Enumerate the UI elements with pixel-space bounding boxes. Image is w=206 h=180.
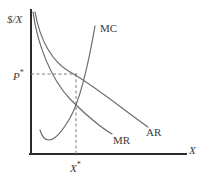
y-axis-label: $/X (7, 14, 22, 25)
price-star-superscript: * (20, 68, 24, 77)
mr-curve-label: MR (113, 135, 130, 146)
quantity-star-label: X* (70, 161, 81, 174)
price-star-label: P* (13, 69, 24, 82)
price-star-base: P (13, 70, 20, 82)
ar-curve-label: AR (146, 127, 161, 138)
mc-curve-label: MC (100, 23, 117, 34)
quantity-star-superscript: * (77, 160, 81, 169)
equilibrium-guides-group (31, 74, 77, 154)
economics-diagram-figure: $/X X P* X* MC MR AR (0, 0, 206, 180)
quantity-star-base: X (70, 162, 77, 174)
x-axis-label: X (189, 145, 196, 156)
ar-curve (35, 12, 148, 127)
